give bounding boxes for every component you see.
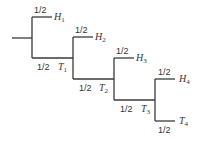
label-h4: H4 (178, 73, 190, 86)
label-t3: T3 (141, 103, 151, 116)
label-h2: H2 (94, 31, 106, 44)
prob-h2: 1/2 (75, 25, 88, 35)
prob-t4: 1/2 (158, 125, 171, 135)
prob-t1: 1/2 (37, 62, 50, 72)
label-t4: T4 (179, 115, 189, 128)
label-t1: T1 (58, 61, 68, 74)
prob-h4: 1/2 (158, 67, 171, 77)
prob-t3: 1/2 (120, 104, 133, 114)
stage-1: 1/2 H1 1/2 T1 (32, 5, 73, 74)
stage-2: 1/2 H2 1/2 T2 (73, 25, 114, 95)
prob-h3: 1/2 (116, 46, 129, 56)
label-t2: T2 (99, 82, 109, 95)
stage-3: 1/2 H3 1/2 T3 (114, 46, 155, 116)
prob-h1: 1/2 (34, 5, 47, 15)
label-h1: H1 (53, 11, 65, 24)
stage-4: 1/2 H4 1/2 T4 (155, 67, 190, 135)
probability-tree-diagram: 1/2 H1 1/2 T1 1/2 H2 1/2 T2 1/2 H3 1/2 T… (0, 0, 199, 144)
label-h3: H3 (135, 52, 147, 65)
prob-t2: 1/2 (79, 83, 92, 93)
